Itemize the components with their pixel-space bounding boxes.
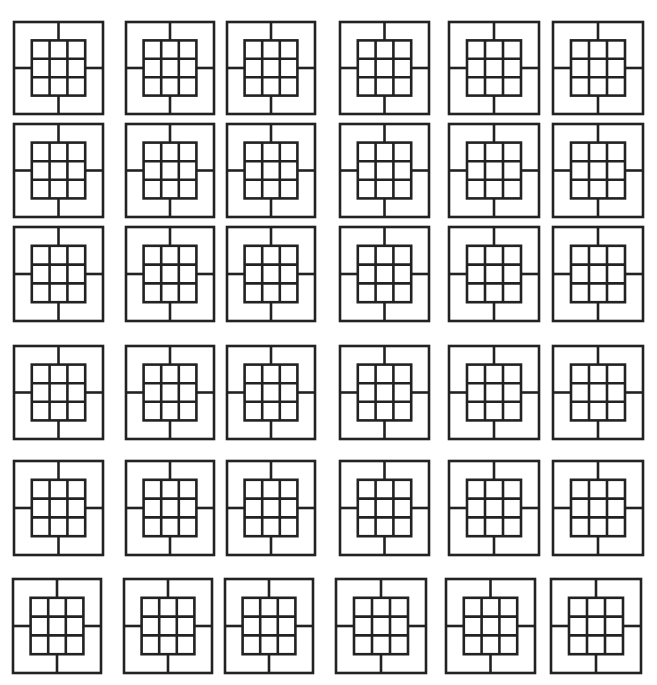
motif-graphic	[340, 461, 429, 555]
grid-motif-tile	[446, 579, 535, 673]
motif-graphic	[449, 461, 539, 555]
motif-graphic	[124, 579, 212, 673]
motif-graphic	[553, 461, 643, 555]
grid-motif-tile	[124, 579, 212, 673]
motif-graphic	[336, 579, 426, 673]
motif-graphic	[449, 227, 539, 321]
motif-graphic	[449, 22, 539, 114]
motif-graphic	[227, 22, 315, 114]
inner-square	[245, 143, 298, 199]
grid-motif-tile	[340, 124, 429, 217]
grid-motif-tile	[227, 124, 315, 217]
motif-graphic	[126, 461, 214, 555]
inner-square	[358, 480, 411, 536]
grid-motif-tile	[553, 22, 643, 114]
inner-square	[571, 480, 625, 536]
motif-graphic	[227, 346, 315, 439]
inner-square	[571, 40, 625, 95]
motif-graphic	[227, 227, 315, 321]
grid-motif-tile	[126, 124, 214, 217]
motif-graphic	[13, 579, 101, 673]
motif-graphic	[14, 461, 103, 555]
grid-motif-tile	[14, 22, 103, 114]
grid-motif-tile	[553, 461, 643, 555]
inner-square	[32, 40, 85, 95]
inner-square	[467, 246, 521, 302]
grid-motif-tile	[340, 461, 429, 555]
grid-motif-tile	[340, 22, 429, 114]
inner-square	[144, 246, 197, 302]
motif-graphic	[449, 124, 539, 217]
grid-motif-tile	[126, 227, 214, 321]
motif-graphic	[553, 227, 643, 321]
grid-motif-tile	[553, 227, 643, 321]
grid-motif-tile	[227, 346, 315, 439]
inner-square	[571, 246, 625, 302]
tile-pattern-figure	[0, 0, 657, 685]
inner-square	[32, 143, 85, 199]
grid-motif-tile	[551, 579, 641, 673]
grid-motif-tile	[553, 346, 643, 439]
motif-graphic	[340, 22, 429, 114]
motif-graphic	[14, 227, 103, 321]
grid-motif-tile	[340, 346, 429, 439]
grid-motif-tile	[449, 124, 539, 217]
inner-square	[464, 598, 517, 654]
inner-square	[142, 598, 195, 654]
motif-graphic	[551, 579, 641, 673]
grid-motif-tile	[13, 579, 101, 673]
inner-square	[31, 598, 84, 654]
motif-graphic	[14, 22, 103, 114]
motif-graphic	[126, 124, 214, 217]
grid-motif-tile	[225, 579, 313, 673]
inner-square	[358, 40, 411, 95]
inner-square	[144, 40, 197, 95]
inner-square	[32, 365, 85, 421]
motif-graphic	[126, 22, 214, 114]
inner-square	[358, 365, 411, 421]
inner-square	[144, 480, 197, 536]
inner-square	[245, 246, 298, 302]
grid-motif-tile	[449, 461, 539, 555]
inner-square	[354, 598, 408, 654]
inner-square	[144, 143, 197, 199]
motif-graphic	[227, 461, 315, 555]
grid-motif-tile	[14, 461, 103, 555]
motif-graphic	[126, 346, 214, 439]
motif-graphic	[14, 124, 103, 217]
inner-square	[571, 143, 625, 199]
inner-square	[571, 365, 625, 421]
motif-graphic	[225, 579, 313, 673]
grid-motif-tile	[227, 22, 315, 114]
grid-motif-tile	[14, 346, 103, 439]
grid-motif-tile	[126, 22, 214, 114]
motif-graphic	[340, 227, 429, 321]
inner-square	[245, 365, 298, 421]
grid-motif-tile	[14, 124, 103, 217]
inner-square	[243, 598, 296, 654]
motif-graphic	[126, 227, 214, 321]
inner-square	[467, 143, 521, 199]
grid-motif-tile	[449, 22, 539, 114]
inner-square	[467, 365, 521, 421]
inner-square	[144, 365, 197, 421]
inner-square	[467, 480, 521, 536]
motif-graphic	[340, 124, 429, 217]
grid-motif-tile	[553, 124, 643, 217]
grid-motif-tile	[449, 227, 539, 321]
inner-square	[569, 598, 623, 654]
motif-graphic	[553, 124, 643, 217]
inner-square	[32, 246, 85, 302]
motif-graphic	[449, 346, 539, 439]
grid-motif-tile	[340, 227, 429, 321]
grid-motif-tile	[126, 461, 214, 555]
motif-graphic	[446, 579, 535, 673]
motif-graphic	[14, 346, 103, 439]
inner-square	[358, 246, 411, 302]
grid-motif-tile	[227, 227, 315, 321]
grid-motif-tile	[227, 461, 315, 555]
grid-motif-tile	[126, 346, 214, 439]
grid-motif-tile	[14, 227, 103, 321]
grid-motif-tile	[336, 579, 426, 673]
motif-graphic	[227, 124, 315, 217]
